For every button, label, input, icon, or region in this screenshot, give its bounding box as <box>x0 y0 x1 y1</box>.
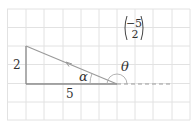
vertical-side-label: 2 <box>13 58 21 72</box>
vector-bottom: 2 <box>132 28 139 41</box>
alpha-arc <box>90 74 92 85</box>
horizontal-side-label: 5 <box>66 87 74 101</box>
column-vector: −5 2 <box>125 16 143 41</box>
theta-label: θ <box>121 59 129 74</box>
alpha-label: α <box>79 69 88 84</box>
grid <box>7 9 190 120</box>
vector-angle-diagram: α θ 2 5 −5 2 <box>0 0 191 126</box>
